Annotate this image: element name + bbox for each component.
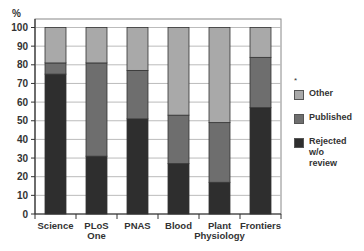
x-tick-label: Physiology [194,230,245,241]
legend-label-other: Other [309,88,333,99]
y-tick-label: 90 [17,41,29,52]
y-tick-label: 0 [22,209,28,220]
y-tick-label: 100 [11,22,28,33]
bar-segment [86,63,107,156]
x-tick-label: Blood [165,220,192,231]
bar-segment [127,70,148,118]
y-tick-label: 60 [17,97,29,108]
stacked-bar-chart: 0102030405060708090100SciencePLoSOnePNAS… [0,0,364,251]
bar-segment [45,74,66,214]
bar-segment [168,164,189,214]
bar-segment [127,119,148,214]
bar-segment [86,28,107,63]
bar-segment [209,123,230,183]
bar-segment [209,28,230,123]
bar-segment [209,182,230,214]
y-axis-label: % [12,8,21,19]
bar-segment [250,57,271,107]
x-tick-label: PNAS [124,220,150,231]
x-tick-label: Science [38,220,74,231]
bar-segment [250,108,271,214]
y-tick-label: 70 [17,78,29,89]
y-tick-label: 20 [17,171,29,182]
y-tick-label: 50 [17,115,29,126]
plot-area: 0102030405060708090100SciencePLoSOnePNAS… [0,0,364,251]
bar-segment [250,28,271,58]
x-tick-label: Frontiers [240,220,281,231]
bar-segment [45,63,66,74]
y-tick-label: 30 [17,153,29,164]
x-tick-label: One [87,230,105,241]
bar-segment [168,115,189,163]
legend-swatch-published [294,114,304,124]
bar-segment [127,28,148,71]
legend-label-rejected: Rejected w/o review [309,136,347,169]
y-tick-label: 80 [17,59,29,70]
bar-segment [45,28,66,63]
legend-swatch-other [294,90,304,100]
bar-segment [168,28,189,116]
legend-label-published: Published [309,112,352,123]
y-tick-label: 10 [17,190,29,201]
legend-marker: * [294,76,297,85]
plot-frame [35,19,281,214]
bar-segment [86,156,107,214]
legend-swatch-rejected [294,138,304,148]
y-tick-label: 40 [17,134,29,145]
